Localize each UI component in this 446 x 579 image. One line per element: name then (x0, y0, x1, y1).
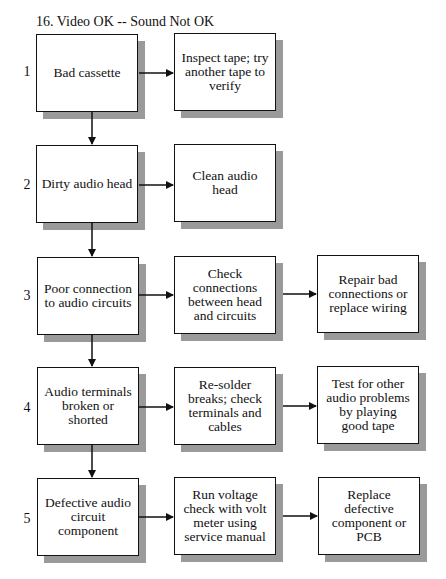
problem-box-4: Audio terminals broken or shorted (37, 367, 139, 445)
step-number-4: 4 (20, 400, 34, 416)
problem-label: Defective audio circuit component (42, 496, 134, 538)
diagram-title: 16. Video OK -- Sound Not OK (36, 14, 214, 30)
step-number-1: 1 (20, 64, 34, 80)
action-box-3a: Check connections between head and circu… (174, 256, 276, 334)
action-label: Replace defective component or PCB (327, 488, 411, 544)
problem-label: Audio terminals broken or shorted (42, 385, 134, 427)
action-box-4b: Test for other audio problems by playing… (317, 366, 419, 444)
problem-box-3: Poor connection to audio circuits (37, 257, 139, 335)
action-box-4a: Re-solder breaks; check terminals and ca… (174, 367, 276, 445)
step-number-5: 5 (20, 511, 34, 527)
action-box-3b: Repair bad connections or replace wiring (317, 255, 419, 333)
problem-box-1: Bad cassette (36, 34, 138, 112)
problem-label: Bad cassette (53, 66, 120, 80)
action-box-1a: Inspect tape; try another tape to verify (174, 33, 276, 111)
action-box-2a: Clean audio head (174, 144, 276, 222)
problem-box-2: Dirty audio head (36, 145, 138, 223)
step-number-2: 2 (20, 177, 34, 193)
problem-label: Poor connection to audio circuits (42, 282, 134, 310)
action-box-5a: Run voltage check with volt meter using … (174, 477, 276, 555)
action-label: Inspect tape; try another tape to verify (179, 51, 271, 93)
problem-label: Dirty audio head (42, 177, 133, 191)
action-box-5b: Replace defective component or PCB (318, 477, 420, 555)
step-number-3: 3 (20, 288, 34, 304)
action-label: Test for other audio problems by playing… (325, 377, 411, 433)
problem-box-5: Defective audio circuit component (37, 478, 139, 556)
action-label: Repair bad connections or replace wiring (322, 273, 414, 315)
action-label: Clean audio head (189, 169, 261, 197)
action-label: Re-solder breaks; check terminals and ca… (179, 378, 271, 434)
action-label: Check connections between head and circu… (185, 267, 265, 323)
action-label: Run voltage check with volt meter using … (179, 488, 271, 544)
